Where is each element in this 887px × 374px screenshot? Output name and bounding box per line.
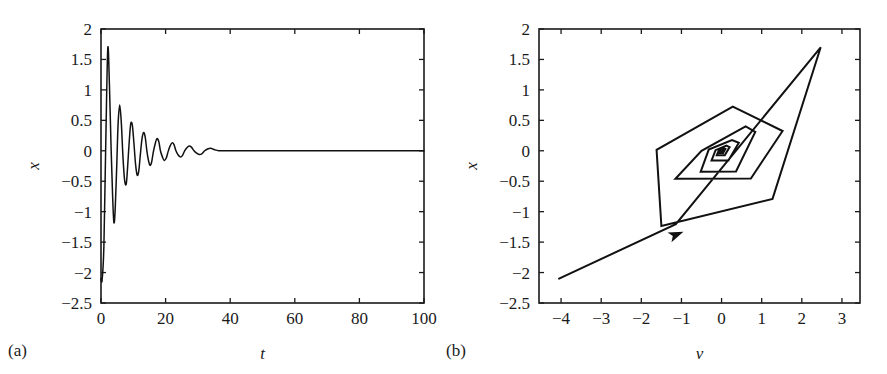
plot-frame	[101, 29, 424, 303]
y-axis-label: x	[24, 162, 43, 171]
panel-label: (a)	[8, 341, 27, 360]
y-tick-label: 1.5	[509, 50, 530, 69]
figure-container: 02040608010021.510.50−0.5−1−1.5−2−2.5tx(…	[0, 0, 887, 374]
y-tick-label: 2	[84, 20, 93, 39]
y-tick-label: 2	[522, 20, 531, 39]
x-tick-label: 100	[411, 309, 437, 328]
y-tick-label: 0	[84, 142, 93, 161]
x-tick-label: 20	[157, 309, 174, 328]
y-tick-label: 0.5	[71, 111, 92, 130]
y-tick-label: −2	[512, 264, 530, 283]
y-tick-label: 0	[522, 142, 531, 161]
x-tick-label: 60	[286, 309, 303, 328]
oscillation-curve	[101, 47, 424, 282]
x-tick-label: −3	[592, 309, 610, 328]
x-tick-label: 2	[798, 309, 807, 328]
x-tick-label: 40	[222, 309, 239, 328]
y-tick-label: −1.5	[499, 233, 530, 252]
panel-label: (b)	[446, 341, 466, 360]
y-tick-label: −2.5	[61, 294, 92, 313]
x-tick-label: −1	[672, 309, 690, 328]
panel-a-svg: 02040608010021.510.50−0.5−1−1.5−2−2.5tx(…	[0, 0, 445, 374]
y-tick-label: 1	[522, 81, 531, 100]
x-tick-label: 0	[97, 309, 106, 328]
direction-arrow-icon	[668, 227, 686, 242]
panel-a: 02040608010021.510.50−0.5−1−1.5−2−2.5tx(…	[0, 0, 445, 374]
y-tick-label: −0.5	[499, 172, 530, 191]
y-tick-label: −0.5	[61, 172, 92, 191]
x-tick-label: −4	[552, 309, 571, 328]
y-tick-label: −2	[74, 264, 92, 283]
panel-b-svg: −4−3−2−1012321.510.50−0.5−1−1.5−2−2.5νx(…	[442, 0, 887, 374]
y-tick-label: −2.5	[499, 294, 530, 313]
x-tick-label: 3	[838, 309, 847, 328]
plot-frame	[539, 29, 860, 303]
x-tick-label: 80	[351, 309, 368, 328]
y-tick-label: −1	[512, 203, 530, 222]
x-axis-label: t	[260, 344, 266, 363]
x-tick-label: −2	[632, 309, 650, 328]
y-tick-label: −1.5	[61, 233, 92, 252]
x-tick-label: 1	[757, 309, 766, 328]
y-tick-label: 0.5	[509, 111, 530, 130]
x-axis-label: ν	[696, 344, 704, 363]
y-axis-label: x	[462, 162, 481, 171]
y-tick-label: 1.5	[71, 50, 92, 69]
y-tick-label: −1	[74, 203, 92, 222]
phase-trajectory	[559, 47, 821, 278]
panel-b: −4−3−2−1012321.510.50−0.5−1−1.5−2−2.5νx(…	[442, 0, 887, 374]
x-tick-label: 0	[717, 309, 726, 328]
y-tick-label: 1	[84, 81, 93, 100]
